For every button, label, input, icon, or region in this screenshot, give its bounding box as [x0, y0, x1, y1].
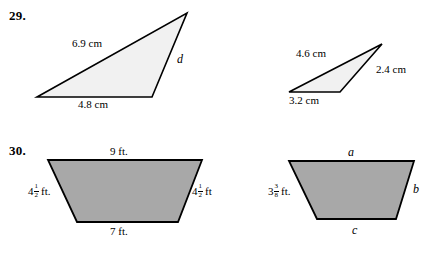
trapezoid-right-shape	[289, 161, 414, 219]
trapezoid-right-svg	[0, 0, 429, 256]
right-trap-mixnum-whole: 3	[268, 186, 274, 197]
right-trap-mixnum-denominator: 8	[274, 192, 279, 200]
worksheet-page: 29. 6.9 cm 4.8 cm d 4.6 cm 3.2 cm 2.4 cm…	[0, 0, 429, 256]
trapezoid-right-top-label-a: a	[348, 146, 354, 158]
right-trap-mixnum-unit: ft.	[281, 186, 290, 197]
trapezoid-right-side-left-label: 3 3 8 ft.	[268, 183, 290, 199]
trapezoid-right-side-label-b: b	[413, 183, 419, 195]
figure-30-trapezoid-right	[0, 0, 429, 256]
trapezoid-right-bottom-label-c: c	[352, 224, 357, 236]
right-trap-mixnum-fraction: 3 8	[274, 183, 279, 199]
